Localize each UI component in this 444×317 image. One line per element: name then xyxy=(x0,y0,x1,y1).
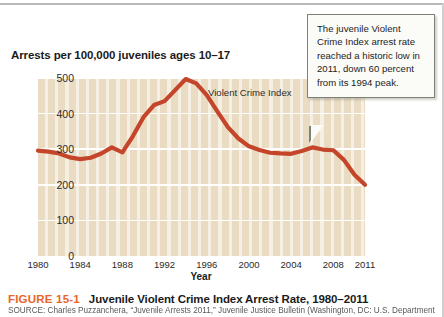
x-axis-tick-label: 1980 xyxy=(18,259,58,270)
x-axis-label: Year xyxy=(190,271,211,282)
figure-title: Juvenile Violent Crime Index Arrest Rate… xyxy=(89,293,368,305)
y-axis-tick-label: 200 xyxy=(34,179,74,191)
figure-number: FIGURE 15-1 xyxy=(8,293,80,305)
figure-container: Arrests per 100,000 juveniles ages 10–17… xyxy=(0,0,444,317)
y-axis-tick-label: 100 xyxy=(34,214,74,226)
y-axis-tick-label: 400 xyxy=(34,108,74,120)
series-annotation-label: Violent Crime Index xyxy=(208,87,292,98)
plot-area xyxy=(38,78,365,256)
x-axis-tick-label: 1988 xyxy=(102,259,142,270)
y-axis-tick-label: 300 xyxy=(34,143,74,155)
x-axis-tick-label: 2000 xyxy=(229,259,269,270)
x-axis-tick-label: 2011 xyxy=(345,259,385,270)
callout-box: The juvenile Violent Crime Index arrest … xyxy=(307,14,435,98)
x-axis-tick-label: 1984 xyxy=(60,259,100,270)
figure-source: SOURCE: Charles Puzzanchera, “Juvenile A… xyxy=(8,306,435,315)
top-divider xyxy=(0,3,444,5)
x-axis-tick-label: 2004 xyxy=(271,259,311,270)
x-axis-tick-label: 1992 xyxy=(145,259,185,270)
callout-tail-icon xyxy=(311,125,324,142)
callout-text: The juvenile Violent Crime Index arrest … xyxy=(317,22,426,89)
chart-title: Arrests per 100,000 juveniles ages 10–17 xyxy=(11,49,230,61)
figure-caption: FIGURE 15-1Juvenile Violent Crime Index … xyxy=(8,289,368,307)
x-axis-tick-label: 1996 xyxy=(187,259,227,270)
violent-crime-index-line xyxy=(38,78,365,256)
y-axis-tick-label: 500 xyxy=(34,72,74,84)
